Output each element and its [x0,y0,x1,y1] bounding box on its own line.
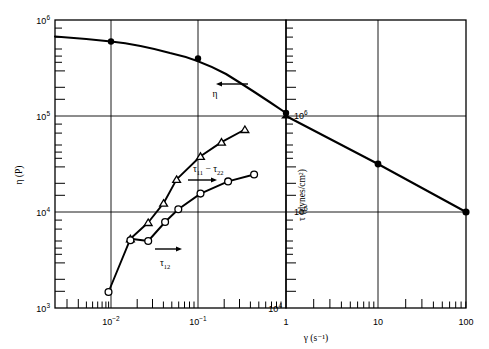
tau-point-2 [375,161,382,168]
tau12-point-7 [225,178,232,185]
tau12-point-8 [251,171,258,178]
tau12-point-3 [145,238,152,245]
tau12-point-1 [105,289,112,296]
figure-container: η τ11 − τ22 [0,0,489,349]
right-y-axis-title: τ (dynes/cm²) [297,169,308,221]
tau12-point-5 [175,206,182,213]
eta-point-1 [108,38,114,44]
tau12-point-2 [127,237,134,244]
left-y-axis-title: η (P) [14,166,25,185]
tau-point-3 [462,208,469,215]
ticklabel-right-x-10: 10 [373,317,383,327]
tau12-point-6 [197,190,204,197]
eta-point-2 [195,55,201,61]
rheology-dual-panel-chart: η τ11 − τ22 [0,0,489,349]
ticklabel-right-x-100: 100 [458,317,473,327]
eta-annotation-label: η [213,89,218,99]
x-axis-title: γ (s⁻¹) [303,333,328,344]
tau12-point-4 [162,219,169,226]
chart-background [0,0,489,349]
ticklabel-left-x-1: 1 [283,317,288,327]
